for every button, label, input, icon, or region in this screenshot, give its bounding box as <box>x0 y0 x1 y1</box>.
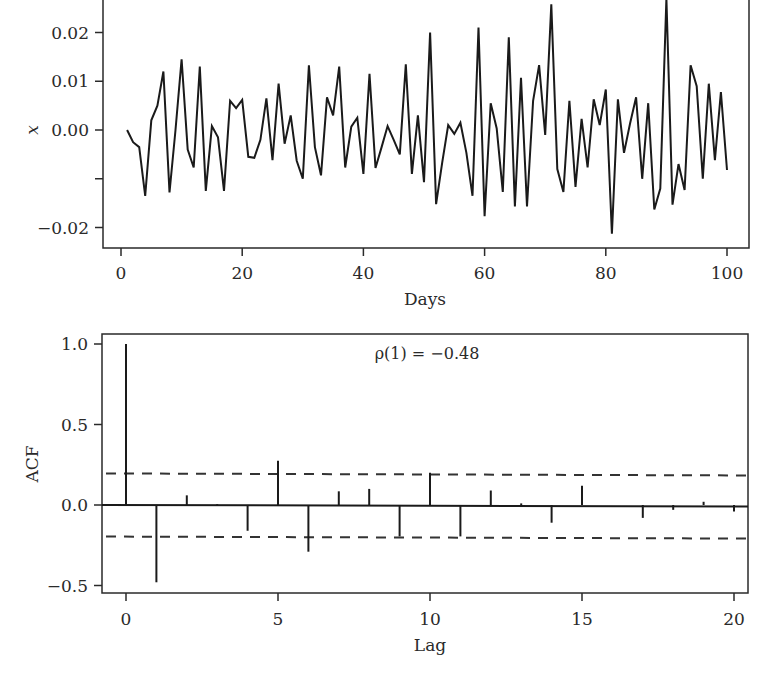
x-axis-title: Lag <box>414 635 446 655</box>
x-tick-label: 20 <box>723 609 745 629</box>
x-tick-label: 0 <box>116 263 127 283</box>
x-tick-label: 20 <box>231 263 253 283</box>
zero-line <box>102 505 748 507</box>
lower-confidence-bound <box>106 537 748 539</box>
x-tick-label: 60 <box>474 263 496 283</box>
y-tick-label: 0.0 <box>61 495 88 515</box>
y-tick-label: 0.02 <box>51 23 89 43</box>
y-axis-title: x <box>22 125 42 135</box>
series-line <box>127 0 727 234</box>
x-axis: 020406080100 <box>116 248 744 283</box>
y-axis-title: ACF <box>22 445 42 483</box>
y-tick-label: 0.01 <box>51 71 89 91</box>
x-tick-label: 40 <box>353 263 375 283</box>
acf-panel: −0.50.00.51.0 05101520 ρ(1) = −0.48 Lag … <box>22 334 748 655</box>
y-tick-label: 1.0 <box>61 334 88 354</box>
y-tick-label: −0.02 <box>37 218 89 238</box>
figure: −0.020.000.010.02 020406080100 Days x −0… <box>0 0 771 676</box>
acf-spikes <box>126 344 734 582</box>
lag1-annotation: ρ(1) = −0.48 <box>375 344 480 363</box>
x-tick-label: 0 <box>121 609 132 629</box>
x-tick-label: 80 <box>595 263 617 283</box>
x-axis-title: Days <box>404 289 446 309</box>
y-axis: −0.50.00.51.0 <box>47 334 102 596</box>
y-axis: −0.020.000.010.02 <box>37 23 103 238</box>
time-series-panel: −0.020.000.010.02 020406080100 Days x <box>22 0 749 309</box>
y-tick-label: 0.5 <box>61 415 88 435</box>
x-axis: 05101520 <box>121 593 745 629</box>
x-tick-label: 10 <box>419 609 441 629</box>
y-tick-label: 0.00 <box>51 120 89 140</box>
x-tick-label: 100 <box>711 263 743 283</box>
x-tick-label: 5 <box>273 609 284 629</box>
plot-frame <box>102 334 748 593</box>
x-tick-label: 15 <box>571 609 593 629</box>
y-tick-label: −0.5 <box>47 576 88 596</box>
upper-confidence-bound <box>106 473 748 475</box>
